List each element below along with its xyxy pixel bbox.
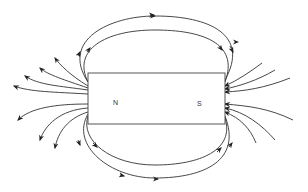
north-pole-label: N xyxy=(113,99,118,106)
arrow-icon xyxy=(229,143,232,147)
field-lines-right-upper xyxy=(225,63,290,92)
arrow-icon xyxy=(78,140,80,145)
field-lines-left-upper xyxy=(14,58,88,94)
field-lines-right-lower xyxy=(225,104,293,143)
magnetic-field-diagram: N S xyxy=(0,0,308,192)
south-pole-label: S xyxy=(197,100,202,107)
bar-magnet xyxy=(88,73,225,124)
field-line-top-outer xyxy=(80,16,238,82)
field-lines-left-lower xyxy=(18,104,88,148)
